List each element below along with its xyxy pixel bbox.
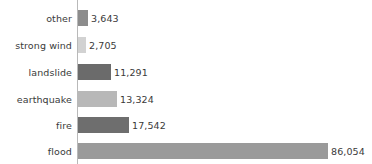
bar-landslide (78, 64, 111, 80)
value-label-landslide: 11,291 (114, 66, 148, 77)
bar-flood (78, 143, 328, 159)
bar-strong-wind (78, 37, 86, 53)
category-label-earthquake: earthquake (17, 93, 72, 104)
value-label-other: 3,643 (91, 12, 119, 23)
bar-row: earthquake 13,324 (0, 85, 372, 112)
bar-row: landslide 11,291 (0, 58, 372, 85)
value-label-strong-wind: 2,705 (89, 39, 117, 50)
bar-earthquake (78, 91, 117, 107)
bar-chart: other 3,643 strong wind 2,705 landslide … (0, 0, 372, 164)
plot-area: other 3,643 strong wind 2,705 landslide … (0, 0, 372, 164)
category-label-strong-wind: strong wind (15, 39, 72, 50)
category-label-fire: fire (56, 119, 72, 130)
bar-fire (78, 117, 129, 133)
bar-other (78, 10, 88, 26)
bar-row: strong wind 2,705 (0, 31, 372, 58)
bar-row: fire 17,542 (0, 111, 372, 138)
bar-row: flood 86,054 (0, 137, 372, 164)
bar-row: other 3,643 (0, 4, 372, 31)
category-label-flood: flood (48, 145, 72, 156)
category-label-landslide: landslide (28, 66, 72, 77)
value-label-flood: 86,054 (331, 145, 365, 156)
value-label-fire: 17,542 (132, 119, 166, 130)
category-label-other: other (46, 12, 72, 23)
value-label-earthquake: 13,324 (120, 93, 154, 104)
